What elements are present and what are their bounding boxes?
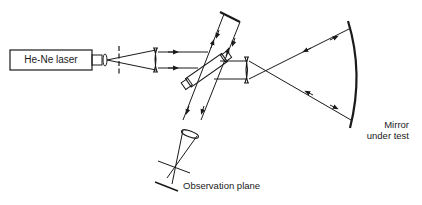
beamsplitter	[181, 50, 233, 90]
observation-plane	[155, 182, 178, 191]
laser-nozzle	[92, 55, 102, 65]
interferometer-diagram	[0, 0, 422, 205]
focal-marker	[158, 161, 190, 173]
mirror-label-line2: under test	[349, 130, 409, 141]
observation-lens-icon	[181, 128, 200, 140]
mirror-under-test	[348, 21, 357, 128]
mirror-under-test-label: Mirror under test	[349, 119, 409, 141]
observation-plane-label: Observation plane	[183, 180, 260, 191]
laser-label: He-Ne laser	[14, 54, 88, 65]
mirror-label-line1: Mirror	[349, 119, 409, 130]
collimating-lens-icon	[153, 48, 158, 72]
microscope-lens	[103, 54, 107, 66]
